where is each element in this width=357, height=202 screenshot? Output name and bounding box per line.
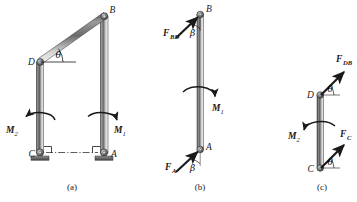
angle-label-beta-b-bottom: β	[189, 163, 195, 173]
right-angle-mark-A	[93, 147, 101, 153]
bar-DB-body	[38, 13, 107, 64]
moment-M2-label-c: M	[287, 131, 297, 141]
angle-label-theta-c-top: θ	[328, 84, 334, 94]
panel-c: F DB θ F C θ M 2 D C (c)	[287, 54, 353, 192]
force-FDB-label: F	[335, 54, 343, 64]
pin-A-inner	[103, 151, 105, 153]
force-FBD-arrow	[176, 18, 200, 39]
point-label-B-a: B	[110, 5, 116, 15]
figure-root: M 2 M 1 B D C A θ (a)	[0, 0, 357, 202]
bar-DB-inclined	[38, 13, 107, 64]
moment-M1-label-b: M	[211, 103, 221, 113]
caption-b: (b)	[195, 182, 206, 192]
point-label-B-b: B	[206, 4, 212, 14]
bar-AB-body	[101, 16, 109, 153]
angle-label-beta-b-top: β	[189, 28, 195, 38]
point-label-D-a: D	[27, 57, 35, 67]
force-FA-subscript: A	[171, 167, 177, 174]
pin-C-inner	[39, 151, 41, 153]
pin-joint-B	[101, 13, 108, 20]
force-FBD-subscript: BD	[169, 33, 179, 40]
force-FA-label: F	[164, 162, 172, 172]
point-label-D-c: D	[306, 90, 314, 100]
moment-M1-subscript-a: 1	[123, 130, 126, 137]
bar-AB	[101, 16, 109, 153]
moment-M1-subscript-b: 1	[221, 108, 224, 115]
bar-CD	[37, 62, 44, 153]
moment-M2-label-a: M	[5, 125, 15, 135]
force-FA-arrow	[176, 152, 200, 172]
right-angle-mark-C	[44, 147, 52, 153]
pin-B-inner	[103, 15, 105, 17]
statics-figure: M 2 M 1 B D C A θ (a)	[0, 0, 357, 202]
force-FC-subscript: C	[347, 134, 352, 141]
point-label-A-b: A	[205, 142, 212, 152]
moment-M2-subscript-c: 2	[297, 136, 301, 143]
bar-CD-body	[37, 62, 44, 153]
angle-label-theta-c-bottom: θ	[328, 157, 334, 167]
point-label-C-a: C	[29, 149, 36, 159]
pin-B-inner-b	[199, 13, 201, 15]
bar-CD-fbd	[317, 95, 324, 168]
pin-A-inner-b	[199, 148, 201, 150]
point-label-A-a: A	[110, 149, 117, 159]
moment-M2-subscript-a: 2	[15, 130, 19, 137]
caption-a: (a)	[67, 182, 77, 192]
panel-b: F BD β F A β M 1 B A (b)	[162, 4, 224, 192]
pin-joint-A-b	[197, 146, 204, 153]
force-FC-label: F	[339, 129, 347, 139]
moment-M1-label-a: M	[113, 125, 123, 135]
panel-a: M 2 M 1 B D C A θ (a)	[5, 5, 126, 192]
angle-label-theta-a: θ	[56, 50, 62, 60]
caption-c: (c)	[317, 182, 327, 192]
point-label-C-c: C	[308, 164, 315, 174]
pin-joint-B-b	[197, 11, 204, 18]
force-FBD-label: F	[162, 28, 170, 38]
bar-AB-fbd	[197, 15, 204, 150]
force-FDB-subscript: DB	[342, 59, 353, 66]
